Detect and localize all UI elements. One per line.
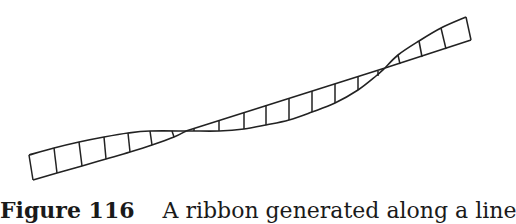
ribbon-bottom-edge — [385, 40, 471, 68]
figure-label: Figure 116 — [0, 197, 135, 223]
ribbon-top-edge — [29, 131, 186, 155]
ribbon-segment-middle — [186, 68, 385, 131]
ribbon-rung — [466, 17, 471, 40]
figure-caption-text: A ribbon generated along a line — [163, 198, 516, 223]
ribbon-segment-left — [29, 131, 186, 180]
ribbon-rung — [150, 131, 152, 145]
ribbon-rung — [104, 137, 106, 159]
ribbon-rung — [398, 55, 400, 64]
ribbon-segment-right — [385, 17, 471, 68]
ribbon-rung — [441, 28, 446, 49]
ribbon-rung — [29, 155, 33, 180]
ribbon-bottom-edge — [33, 131, 186, 180]
caption-separator — [142, 198, 156, 223]
ribbon-rung — [128, 133, 130, 152]
ribbon-top-edge — [385, 17, 466, 68]
ribbon-rung — [54, 148, 57, 173]
ribbon-rung — [172, 131, 174, 137]
ribbon-rung — [79, 142, 82, 166]
figure-caption: Figure 116 A ribbon generated along a li… — [0, 197, 502, 224]
ribbon-rung — [419, 41, 422, 57]
